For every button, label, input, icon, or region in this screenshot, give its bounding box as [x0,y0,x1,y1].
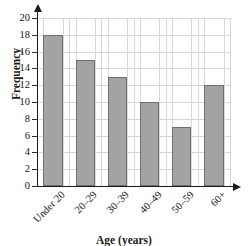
bar [43,35,62,186]
y-axis-tick-label: 20 [12,13,30,24]
gridline-vertical [127,18,128,186]
gridline-vertical [95,18,96,186]
y-axis-tick-label: 4 [12,147,30,158]
gridline-vertical [101,18,102,186]
plot-area [37,18,230,186]
y-axis-tick-label: 0 [12,181,30,192]
bar [76,60,95,186]
bar [172,127,191,186]
gridline-vertical [198,18,199,186]
y-axis-tick-label: 10 [12,97,30,108]
x-axis-title: Age (years) [0,234,248,246]
y-axis-arrow-icon [34,4,42,12]
x-axis-line [37,186,234,187]
gridline-vertical [63,18,64,186]
gridline-vertical [69,18,70,186]
y-axis-tick-label: 16 [12,47,30,58]
bar [140,102,159,186]
y-axis-tick-label: 14 [12,63,30,74]
y-axis-tick-label: 2 [12,164,30,175]
bar [204,85,223,186]
gridline-vertical [134,18,135,186]
y-axis-tick-label: 8 [12,114,30,125]
y-axis-tick-label: 6 [12,131,30,142]
y-axis-tick-label: 12 [12,80,30,91]
gridline-vertical [224,18,225,186]
x-axis-arrow-icon [233,183,241,191]
gridline-vertical [230,18,231,186]
y-axis-tick-label: 18 [12,30,30,41]
bar [108,77,127,186]
gridline-vertical [166,18,167,186]
y-axis-tick-labels: 02468101214161820 [12,0,30,243]
y-axis-line [37,11,38,187]
